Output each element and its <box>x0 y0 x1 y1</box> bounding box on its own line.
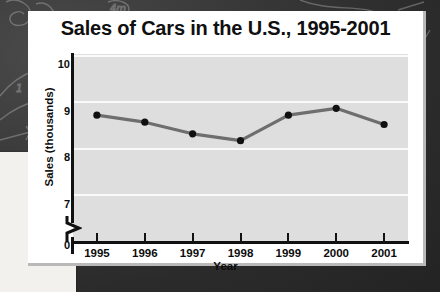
data-point-1998 <box>237 137 244 144</box>
y-tick-label-0: 0 <box>44 240 70 251</box>
series-line-sales <box>97 108 384 140</box>
chart-card: Sales of Cars in the U.S., 1995-2001 109… <box>28 11 426 266</box>
plot-area <box>73 54 408 242</box>
x-tick-1995 <box>96 233 98 242</box>
x-tick-1998 <box>240 233 242 242</box>
x-tick-1997 <box>192 233 194 242</box>
x-tick-label-2000: 2000 <box>314 247 358 259</box>
x-axis-title: Year <box>28 260 423 272</box>
data-point-1995 <box>93 112 100 119</box>
line-series <box>73 54 408 242</box>
y-axis-line-upper <box>71 53 74 223</box>
x-tick-2001 <box>383 233 385 242</box>
x-tick-2000 <box>335 233 337 242</box>
x-tick-label-1999: 1999 <box>266 247 310 259</box>
data-point-1996 <box>141 119 148 126</box>
data-point-1997 <box>189 130 196 137</box>
svg-text:1: 1 <box>16 83 22 94</box>
x-tick-label-1995: 1995 <box>75 247 119 259</box>
x-tick-label-1997: 1997 <box>171 247 215 259</box>
x-tick-label-1998: 1998 <box>219 247 263 259</box>
y-tick-label-10: 10 <box>44 59 70 70</box>
x-tick-label-2001: 2001 <box>362 247 406 259</box>
y-axis-title: Sales (thousands) <box>43 72 55 202</box>
data-point-1999 <box>285 112 292 119</box>
chart-title: Sales of Cars in the U.S., 1995-2001 <box>28 17 423 40</box>
x-tick-1996 <box>144 233 146 242</box>
data-point-2001 <box>381 121 388 128</box>
x-tick-label-1996: 1996 <box>123 247 167 259</box>
x-tick-1999 <box>287 233 289 242</box>
data-point-2000 <box>333 105 340 112</box>
